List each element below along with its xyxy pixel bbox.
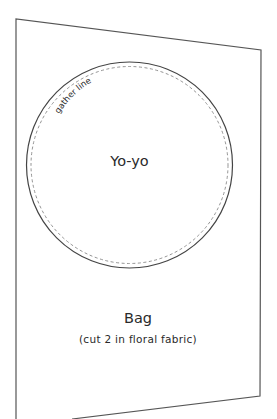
gather-line-label: gather line	[52, 75, 93, 115]
pattern-diagram: gather line Yo-yo Bag (cut 2 in floral f…	[0, 0, 277, 419]
cutting-instruction: (cut 2 in floral fabric)	[79, 333, 197, 345]
bag-outline	[16, 19, 261, 419]
piece-name: Bag	[124, 310, 152, 326]
yoyo-label: Yo-yo	[109, 153, 149, 169]
